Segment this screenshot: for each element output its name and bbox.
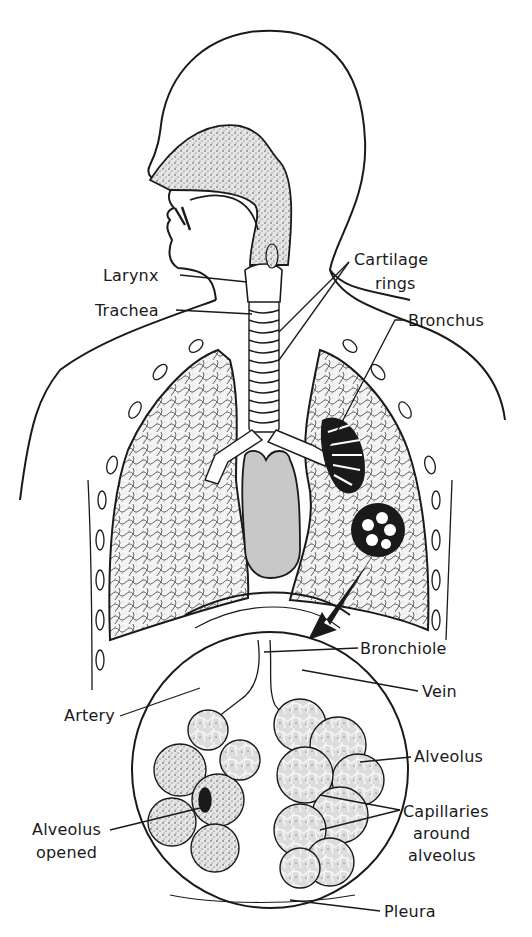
label-bronchiole: Bronchiole: [360, 639, 447, 658]
label-capillaries-line3: alveolus: [408, 846, 476, 865]
label-trachea: Trachea: [95, 301, 159, 320]
right-lung: [109, 350, 248, 640]
label-pleura: Pleura: [384, 902, 436, 921]
trachea: [249, 300, 279, 432]
label-alveolus: Alveolus: [414, 747, 483, 766]
larynx: [245, 264, 282, 302]
label-artery: Artery: [64, 706, 115, 725]
label-cartilage-rings-line1: Cartilage: [354, 250, 428, 269]
label-larynx: Larynx: [103, 266, 159, 285]
label-vein: Vein: [422, 682, 457, 701]
label-alveolus-opened-line1: Alveolus: [32, 820, 101, 839]
left-lung: [290, 350, 428, 630]
label-bronchus: Bronchus: [408, 311, 484, 330]
label-cartilage-rings-line2: rings: [375, 274, 416, 293]
heart: [242, 451, 300, 578]
respiratory-system-illustration: [0, 0, 532, 937]
label-alveolus-opened-line2: opened: [36, 843, 97, 862]
label-capillaries-line2: around: [413, 824, 470, 843]
label-capillaries-line1: Capillaries: [403, 802, 489, 821]
magnifier-circle: [351, 503, 405, 557]
